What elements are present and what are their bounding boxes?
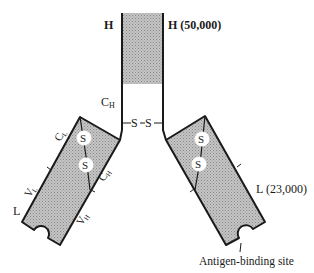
s-label: S bbox=[80, 132, 86, 144]
heavy-chain-right-line bbox=[163, 13, 166, 140]
svg-text:C: C bbox=[101, 95, 109, 109]
light-chain-label-left: L bbox=[13, 204, 20, 218]
hinge-s-right: S bbox=[145, 116, 152, 130]
hinge-s-left: S bbox=[131, 116, 138, 130]
heavy-chain-label-right: H (50,000) bbox=[168, 18, 221, 32]
s-label: S bbox=[195, 158, 201, 170]
s-label: S bbox=[198, 133, 204, 145]
heavy-chain-label-left: H bbox=[104, 18, 114, 32]
s-label: S bbox=[82, 159, 88, 171]
right-fab-arm bbox=[166, 116, 265, 245]
ch-stem-label: C H bbox=[101, 95, 115, 110]
antigen-binding-site-label: Antigen-binding site bbox=[199, 255, 294, 268]
fc-stem-shade bbox=[122, 13, 163, 84]
light-chain-label-right: L (23,000) bbox=[256, 182, 307, 196]
antigen-site-pointer bbox=[240, 243, 241, 252]
svg-text:H: H bbox=[109, 101, 115, 110]
heavy-chain-left-line bbox=[120, 13, 122, 140]
antibody-diagram: S S S S S S H H (50,000) C H C L V L C H… bbox=[0, 0, 314, 273]
